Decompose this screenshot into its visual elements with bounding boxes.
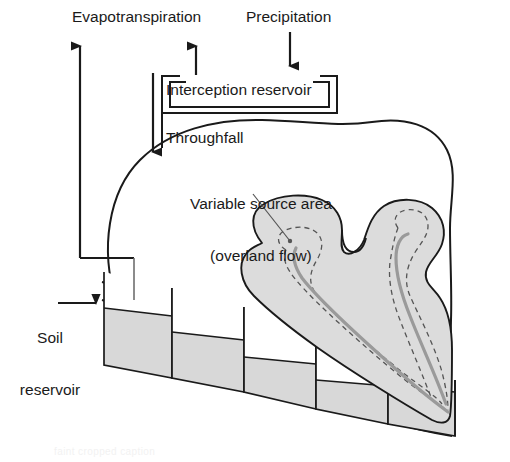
label-vsa-line2: (overland flow) bbox=[190, 247, 332, 264]
evapotranspiration-arrow-left bbox=[80, 46, 134, 300]
soil-box-1 bbox=[104, 272, 172, 378]
label-vsa-line1: Variable source area bbox=[190, 195, 332, 212]
label-soil-line2: reservoir bbox=[6, 381, 94, 398]
label-evapotranspiration: Evapotranspiration bbox=[72, 8, 201, 25]
label-precipitation: Precipitation bbox=[246, 8, 331, 25]
hydrology-diagram: Evapotranspiration Precipitation Interce… bbox=[0, 0, 510, 462]
cropped-caption-ghost: faint cropped caption bbox=[54, 446, 155, 457]
label-interception-reservoir: Interception reservoir bbox=[166, 81, 312, 98]
soil-box-2 bbox=[172, 288, 244, 392]
label-soil-line1: Soil bbox=[6, 329, 94, 346]
label-soil-reservoir: Soil reservoir bbox=[6, 294, 94, 433]
label-variable-source-area: Variable source area (overland flow) bbox=[190, 160, 332, 299]
label-throughfall: Throughfall bbox=[166, 129, 244, 146]
